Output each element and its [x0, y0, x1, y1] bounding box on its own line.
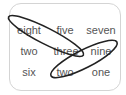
loop-nine-two [47, 34, 121, 84]
loop-overlay [0, 0, 126, 95]
